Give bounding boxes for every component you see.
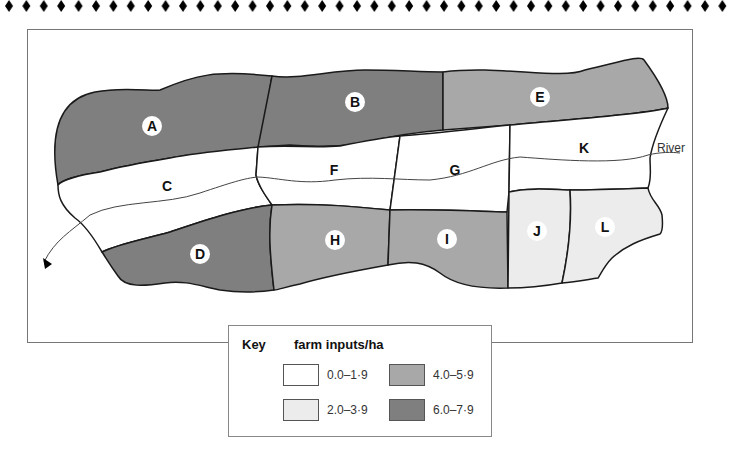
region-label-a: A: [142, 116, 162, 136]
key-label-3: 6.0–7·9: [433, 403, 474, 417]
region-label-h: H: [325, 230, 345, 250]
key-swatch-3: [389, 399, 425, 421]
region-f: [256, 136, 400, 210]
svg-text:A: A: [147, 118, 157, 134]
svg-text:D: D: [195, 246, 205, 262]
svg-text:K: K: [579, 140, 589, 156]
svg-text:B: B: [350, 94, 360, 110]
key-swatch-1: [283, 399, 319, 421]
key-subtitle: farm inputs/ha: [294, 337, 384, 352]
region-l: [562, 188, 662, 283]
svg-text:J: J: [533, 223, 541, 239]
svg-text:I: I: [445, 231, 449, 247]
river-arrow-icon: [43, 258, 52, 269]
svg-text:G: G: [450, 162, 461, 178]
region-label-j: J: [527, 221, 547, 241]
svg-text:E: E: [535, 89, 544, 105]
svg-text:C: C: [162, 178, 172, 194]
map-key: Key farm inputs/ha 0.0–1·9 2.0–3·9 4.0–5…: [228, 325, 492, 437]
key-title: Key: [242, 337, 266, 352]
key-label-2: 4.0–5·9: [433, 368, 474, 382]
svg-text:F: F: [330, 162, 339, 178]
region-label-e: E: [530, 87, 550, 107]
region-label-c: C: [162, 178, 172, 194]
key-swatch-2: [389, 364, 425, 386]
region-label-g: G: [450, 162, 461, 178]
region-label-i: I: [437, 229, 457, 249]
region-label-l: L: [595, 217, 615, 237]
svg-text:L: L: [601, 219, 610, 235]
key-label-0: 0.0–1·9: [327, 368, 368, 382]
svg-text:H: H: [330, 232, 340, 248]
region-label-k: K: [579, 140, 589, 156]
key-swatch-0: [283, 364, 319, 386]
region-label-b: B: [345, 92, 365, 112]
river-label: River: [657, 141, 685, 155]
key-label-1: 2.0–3·9: [327, 403, 368, 417]
region-label-d: D: [190, 244, 210, 264]
region-label-f: F: [330, 162, 339, 178]
